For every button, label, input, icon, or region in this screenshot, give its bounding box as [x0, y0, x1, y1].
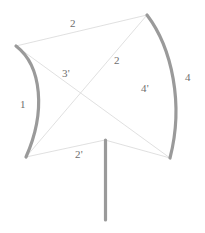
label-2-prime: 2'	[75, 149, 83, 160]
bottom-right-edge	[105, 140, 170, 158]
diagonal-top-right-to-bottom-left	[26, 15, 147, 157]
figure-canvas: 2 2 3' 4' 4 1 2'	[0, 0, 205, 233]
label-left-1: 1	[20, 99, 26, 110]
label-top-2: 2	[70, 18, 76, 29]
label-right-4: 4	[185, 72, 191, 83]
label-4-prime: 4'	[141, 83, 149, 94]
right-curved-edge	[147, 15, 176, 158]
label-3-prime: 3'	[62, 68, 70, 79]
figure-drawing	[0, 0, 205, 233]
label-mid-2: 2	[114, 55, 120, 66]
top-edge	[16, 15, 147, 46]
